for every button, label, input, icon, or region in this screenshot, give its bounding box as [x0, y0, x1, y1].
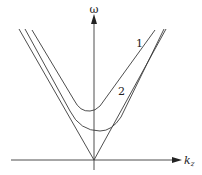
y-axis-label: ω [90, 3, 99, 16]
x-axis-label-subscript: z [190, 160, 195, 168]
x-axis-label: kz [184, 154, 195, 168]
dispersion-diagram: ω kz 1 2 [0, 0, 202, 175]
curve-2 [25, 29, 164, 131]
asymptote-lines [19, 29, 166, 160]
curve-2-label: 2 [118, 85, 125, 98]
curve-1-label: 1 [136, 37, 143, 50]
x-axis-arrow-icon [172, 157, 182, 163]
